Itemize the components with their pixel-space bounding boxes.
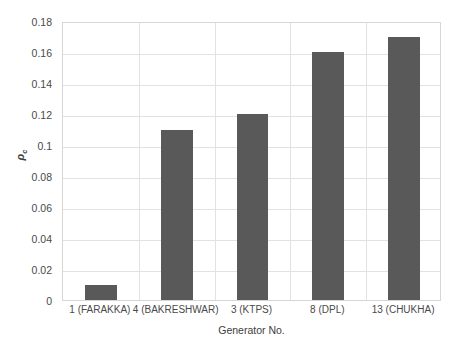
bars-layer [63,23,440,300]
bar [161,130,193,301]
y-axis-tick-labels: 00.020.040.060.080.10.120.140.160.18 [0,0,58,351]
y-axis-tick-label: 0.02 [32,264,52,276]
y-axis-tick-label: 0.04 [32,233,52,245]
y-axis-tick-label: 0.18 [32,16,52,28]
plot-area [62,22,441,301]
bar [312,52,344,300]
x-axis-tick-label: 8 (DPL) [310,304,344,315]
y-axis-tick-label: 0.06 [32,202,52,214]
bar [388,37,420,301]
bar [85,285,117,301]
x-axis-tick-label: 3 (KTPS) [231,304,272,315]
x-axis-tick-label: 13 (CHUKHA) [372,304,435,315]
x-axis-title: Generator No. [62,324,441,336]
y-axis-tick-label: 0 [46,295,52,307]
y-axis-tick-label: 0.16 [32,47,52,59]
y-axis-tick-label: 0.1 [37,140,52,152]
bar [237,114,269,300]
x-axis-tick-label: 4 (BAKRESHWAR) [133,304,219,315]
y-axis-tick-label: 0.12 [32,109,52,121]
x-axis-tick-labels: 1 (FARAKKA)4 (BAKRESHWAR)3 (KTPS)8 (DPL)… [62,304,441,322]
bar-chart: ρc 00.020.040.060.080.10.120.140.160.18 … [0,0,463,351]
y-axis-tick-label: 0.14 [32,78,52,90]
y-axis-tick-label: 0.08 [32,171,52,183]
x-axis-tick-label: 1 (FARAKKA) [69,304,130,315]
